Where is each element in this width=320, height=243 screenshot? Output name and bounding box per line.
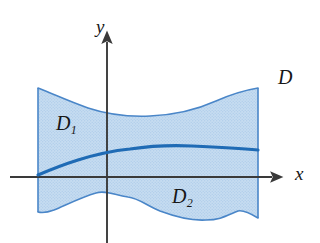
figure-svg <box>0 0 320 243</box>
region-label-D1-text: D <box>56 112 70 134</box>
region-label-D2-text: D <box>172 185 186 207</box>
region-label-D1-subscript: 1 <box>71 123 77 137</box>
region-label-D: D <box>278 67 292 87</box>
region-label-D2: D2 <box>172 186 193 209</box>
region-label-D1: D1 <box>56 113 77 136</box>
region-label-D2-subscript: 2 <box>187 196 193 210</box>
y-axis-label: y <box>96 17 104 36</box>
region-label-D-text: D <box>278 66 292 88</box>
figure-container: D D1 D2 y x <box>0 0 320 243</box>
x-axis-label: x <box>295 164 303 183</box>
region-fill <box>38 88 258 220</box>
